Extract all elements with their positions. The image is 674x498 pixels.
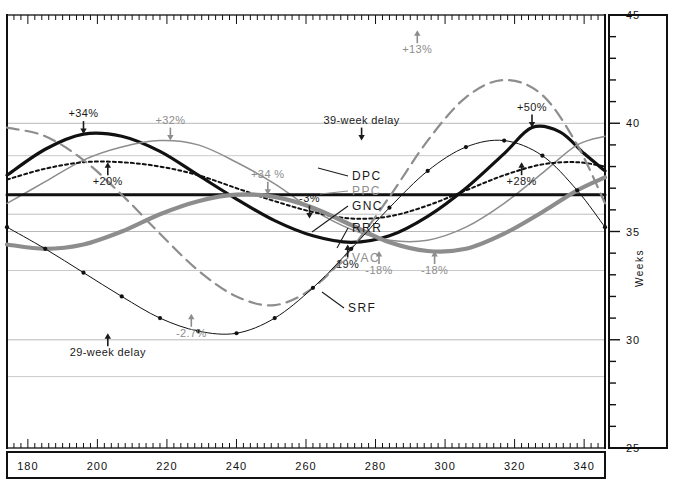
annotation-label: +28% xyxy=(507,175,537,187)
chart-root: 180200220240260280300320340 4540353025 W… xyxy=(0,0,674,498)
x-tick-label: 240 xyxy=(226,460,247,472)
annotation-label: -2.7% xyxy=(176,327,207,339)
annotation-label: +34% xyxy=(68,107,98,119)
series-label: GNC xyxy=(352,199,383,213)
annotation-label: +32% xyxy=(155,114,185,126)
data-point xyxy=(158,316,162,320)
x-tick-label: 200 xyxy=(87,460,108,472)
x-tick-label: 340 xyxy=(573,460,594,472)
series-label: SRF xyxy=(348,301,376,315)
cycle-chart: 180200220240260280300320340 4540353025 W… xyxy=(0,0,674,498)
y-tick-label: 30 xyxy=(626,334,640,346)
annotation-label: -18% xyxy=(421,264,448,276)
x-tick-label: 260 xyxy=(295,460,316,472)
annotation-label: +13% xyxy=(402,43,432,55)
data-point xyxy=(120,294,124,298)
data-point xyxy=(540,154,544,158)
data-point xyxy=(234,331,238,335)
data-point xyxy=(575,188,579,192)
series-label: DPC xyxy=(352,169,382,183)
data-point xyxy=(426,169,430,173)
data-point xyxy=(81,271,85,275)
x-axis-tick-labels: 180200220240260280300320340 xyxy=(17,460,595,472)
x-tick-label: 320 xyxy=(504,460,525,472)
data-point xyxy=(603,225,607,229)
x-tick-label: 220 xyxy=(156,460,177,472)
x-tick-label: 280 xyxy=(365,460,386,472)
data-point xyxy=(311,286,315,290)
series-label: PPC xyxy=(352,184,381,198)
y-tick-label: 25 xyxy=(626,442,640,454)
x-tick-label: 300 xyxy=(434,460,455,472)
y-tick-label: 45 xyxy=(626,9,640,21)
annotation-label: +34 % xyxy=(251,168,285,180)
annotation-label: +20% xyxy=(93,175,123,187)
annotation-label: -18% xyxy=(365,264,392,276)
x-tick-label: 180 xyxy=(17,460,38,472)
data-point xyxy=(502,138,506,142)
annotation-label: 29-week delay xyxy=(70,346,146,358)
y-axis-title: Weeks xyxy=(634,249,645,287)
annotation-label: 39-week delay xyxy=(324,114,400,126)
chart-background xyxy=(0,0,674,498)
y-tick-label: 35 xyxy=(626,226,640,238)
data-point xyxy=(43,247,47,251)
annotation-label: +50% xyxy=(517,101,547,113)
data-point xyxy=(5,225,9,229)
annotation-label: -3% xyxy=(299,192,320,204)
series-label: VAC xyxy=(352,251,380,265)
data-point xyxy=(387,206,391,210)
data-point xyxy=(464,145,468,149)
series-label: RRR xyxy=(352,221,382,235)
data-point xyxy=(273,316,277,320)
y-tick-label: 40 xyxy=(626,117,640,129)
